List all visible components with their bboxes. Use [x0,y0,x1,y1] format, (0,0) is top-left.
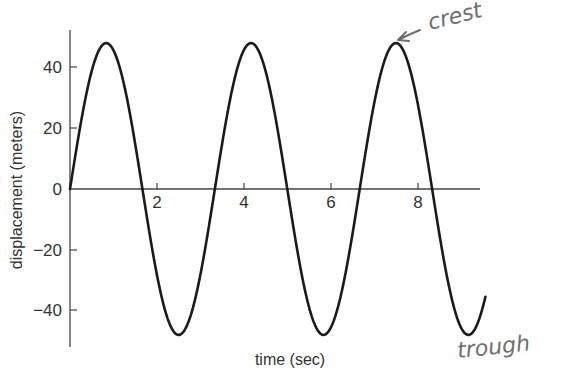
y-tick-label: −20 [33,241,62,260]
x-tick-label: 8 [413,193,422,212]
y-tick-label: 40 [43,58,62,77]
displacement-chart: 40 20 0 −20 −40 2 4 6 8 time (sec) displ… [0,0,568,377]
y-tick-label: −40 [33,301,62,320]
y-tick-label: 20 [43,119,62,138]
x-tick-label: 6 [326,193,335,212]
y-axis-label: displacement (meters) [8,111,25,269]
x-tick-label: 4 [239,193,248,212]
x-axis-label: time (sec) [255,351,325,368]
y-tick-label: 0 [53,180,62,199]
crest-label: crest [425,0,486,35]
arrow-icon [398,30,420,41]
x-tick-label: 2 [152,193,161,212]
crest-annotation: crest [398,0,486,41]
